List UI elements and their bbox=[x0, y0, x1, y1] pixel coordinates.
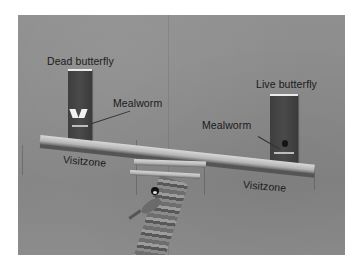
lower-bar bbox=[134, 159, 206, 168]
setup-photo bbox=[18, 15, 345, 255]
bird-tail bbox=[128, 209, 141, 219]
live-butterfly-label: Live butterfly bbox=[256, 78, 317, 90]
live-butterfly-panel bbox=[270, 94, 298, 166]
live-butterfly-icon bbox=[282, 140, 288, 147]
mealworm-right bbox=[274, 152, 294, 154]
mealworm-left-leader bbox=[92, 111, 130, 124]
dead-butterfly-label: Dead butterfly bbox=[47, 55, 114, 67]
string-line bbox=[22, 145, 23, 175]
butterfly-wing-icon bbox=[78, 109, 87, 118]
dead-butterfly-panel bbox=[68, 69, 92, 141]
mealworm-right-label: Mealworm bbox=[202, 119, 251, 131]
mealworm-left-label: Mealworm bbox=[113, 97, 162, 109]
butterfly-wing-icon bbox=[69, 109, 78, 118]
mealworm-left bbox=[72, 125, 88, 127]
bird-cheek bbox=[153, 191, 157, 194]
